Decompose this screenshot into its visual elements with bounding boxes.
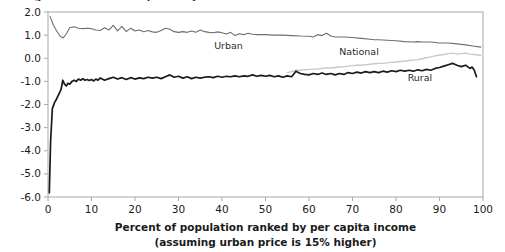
x-tick-label: 80 <box>389 203 402 215</box>
x-tick-label: 100 <box>473 203 493 215</box>
x-tick-label: 50 <box>259 203 272 215</box>
y-tick-label: 1.0 <box>24 29 41 41</box>
series-line-rural <box>49 63 476 193</box>
x-tick-label: 60 <box>302 203 315 215</box>
y-tick-label: 2.0 <box>24 6 41 18</box>
x-axis-title-line1: Percent of population ranked by per capi… <box>115 221 416 233</box>
x-tick-label: 10 <box>85 203 98 215</box>
y-tick-label: -5.0 <box>21 167 42 179</box>
x-tick-label: 30 <box>172 203 185 215</box>
series-annotation-rural: Rural <box>408 72 433 83</box>
x-tick-label: 40 <box>215 203 228 215</box>
series-annotation-national: National <box>339 46 379 57</box>
x-axis-title-line2: (assuming urban price is 15% higher) <box>154 236 376 248</box>
y-tick-label: -4.0 <box>21 144 42 156</box>
x-tick-label: 70 <box>346 203 359 215</box>
x-tick-label: 90 <box>433 203 446 215</box>
y-tick-label: -2.0 <box>21 98 42 110</box>
y-tick-label: -3.0 <box>21 121 42 133</box>
y-tick-label: -1.0 <box>21 75 42 87</box>
line-chart-svg: 2.01.00.0-1.0-2.0-3.0-4.0-5.0-6.00102030… <box>0 0 505 252</box>
y-tick-label: -6.0 <box>21 191 42 203</box>
series-line-urban <box>50 17 481 48</box>
chart-page: Figure 4. Urban-rural price adjustment 2… <box>0 0 505 252</box>
y-tick-label: 0.0 <box>24 52 41 64</box>
x-tick-label: 0 <box>45 203 52 215</box>
x-tick-label: 20 <box>128 203 141 215</box>
series-annotation-urban: Urban <box>214 40 243 51</box>
plot-frame <box>48 12 483 197</box>
chart-canvas: 2.01.00.0-1.0-2.0-3.0-4.0-5.0-6.00102030… <box>0 0 505 252</box>
